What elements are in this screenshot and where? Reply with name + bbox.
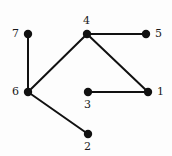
- graph-node-label: 5: [155, 28, 162, 39]
- graph-node: [24, 30, 32, 38]
- graph-diagram: 1234567: [0, 0, 172, 156]
- graph-node: [24, 88, 32, 96]
- graph-node: [144, 88, 152, 96]
- nodes-layer: [24, 30, 152, 138]
- graph-node-label: 1: [157, 86, 164, 97]
- graph-node: [83, 30, 91, 38]
- graph-node: [84, 88, 92, 96]
- graph-node-label: 3: [84, 99, 91, 110]
- graph-edge: [28, 92, 88, 134]
- graph-node: [142, 30, 150, 38]
- graph-node-label: 6: [12, 86, 19, 97]
- graph-node-label: 4: [83, 15, 90, 26]
- graph-edge: [87, 34, 148, 92]
- graph-node-label: 2: [84, 141, 91, 152]
- graph-edge: [28, 34, 87, 92]
- edges-layer: [28, 34, 148, 134]
- graph-node: [84, 130, 92, 138]
- graph-node-label: 7: [12, 28, 19, 39]
